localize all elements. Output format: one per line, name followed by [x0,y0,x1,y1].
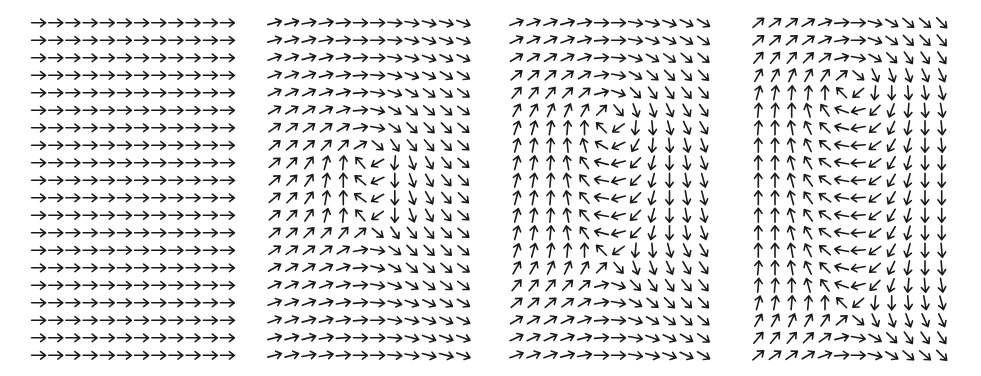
arrow-icon [696,102,710,118]
arrow-icon [169,142,183,150]
arrow-icon [817,226,833,240]
arrow-icon [135,194,149,202]
arrow-icon [936,85,947,100]
arrow-icon [387,70,402,81]
arrow-icon [851,176,866,185]
arrow-icon [698,173,709,188]
arrow-icon [801,330,816,345]
arrow-icon [768,312,781,328]
arrow-icon [438,296,454,309]
arrow-icon [884,349,900,362]
arrow-icon [353,123,368,133]
arrow-icon [32,177,46,185]
arrow-icon [83,352,97,360]
arrow-icon [100,177,114,185]
arrow-icon [612,334,626,342]
arrow-icon [679,331,695,344]
arrow-icon [768,67,781,83]
arrow-icon [919,312,932,328]
arrow-icon [546,155,555,170]
arrow-icon [560,34,576,46]
arrow-icon [645,51,661,64]
arrow-icon [100,247,114,255]
arrow-icon [594,333,609,342]
arrow-icon [509,314,525,327]
arrow-icon [563,225,573,240]
arrow-icon [771,156,779,170]
arrow-icon [682,208,692,223]
arrow-icon [267,173,283,188]
arrow-icon [509,349,525,361]
arrow-icon [32,142,46,150]
arrow-icon [456,120,472,135]
arrow-icon [594,280,609,291]
arrow-icon [117,142,131,150]
arrow-icon [679,85,694,101]
arrow-icon [49,194,63,202]
arrow-icon [391,191,399,205]
arrow-icon [628,208,643,223]
arrow-icon [526,51,542,64]
arrow-icon [771,138,779,152]
arrow-icon [921,173,929,187]
arrow-icon [387,351,402,360]
arrow-icon [301,69,317,81]
arrow-icon [755,191,763,205]
arrow-icon [788,103,796,117]
arrow-icon [682,225,692,240]
arrow-icon [135,352,149,360]
arrow-icon [800,349,816,362]
arrow-icon [679,313,695,328]
arrow-icon [834,52,849,63]
arrow-icon [755,138,763,152]
arrow-icon [284,297,300,309]
arrow-icon [921,121,929,135]
arrow-icon [169,352,183,360]
arrow-icon [267,121,283,135]
arrow-icon [370,174,386,187]
arrow-icon [544,102,557,118]
arrow-icon [203,229,217,237]
arrow-icon [456,173,471,188]
arrow-icon [135,72,149,80]
arrow-icon [577,278,593,293]
arrow-icon [186,177,200,185]
arrow-icon [647,173,658,188]
arrow-icon [561,102,574,118]
arrow-icon [786,208,797,223]
arrow-icon [100,282,114,290]
arrow-icon [169,107,183,115]
arrow-icon [543,17,559,29]
arrow-icon [353,352,367,360]
arrow-icon [404,18,419,28]
arrow-icon [100,19,114,27]
arrow-icon [546,173,555,188]
arrow-icon [834,262,849,273]
arrow-icon [629,137,642,153]
arrow-icon [321,155,332,170]
arrow-icon [577,350,592,360]
arrow-icon [439,103,455,118]
arrow-icon [370,123,385,133]
arrow-icon [921,226,929,240]
arrow-icon [917,33,932,48]
arrow-icon [645,277,659,293]
arrow-icon [422,207,435,223]
arrow-icon [612,37,626,45]
arrow-icon [817,331,833,345]
arrow-icon [186,299,200,307]
arrow-icon [834,313,850,328]
arrow-icon [32,19,46,27]
arrow-icon [267,190,283,205]
arrow-icon [628,296,644,309]
arrow-icon [680,120,693,136]
arrow-icon [834,295,849,310]
arrow-icon [83,124,97,132]
arrow-icon [152,89,166,97]
arrow-icon [645,314,661,327]
arrow-icon [456,86,472,100]
arrow-icon [301,315,316,326]
arrow-icon [901,15,917,30]
arrow-icon [612,19,626,27]
arrow-icon [32,89,46,97]
